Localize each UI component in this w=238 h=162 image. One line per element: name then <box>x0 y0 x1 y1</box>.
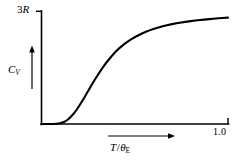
einstein-heat-capacity-figure: 3R 1.0 CV T/θE <box>0 0 238 162</box>
y-axis-title: CV <box>8 64 20 77</box>
y-axis-direction-arrow-icon <box>29 46 35 90</box>
x-axis-title-denominator-subscript: E <box>126 146 131 155</box>
x-axis-title: T/θE <box>110 142 130 155</box>
y-axis-max-label: 3R <box>17 4 29 15</box>
x-axis-max-label: 1.0 <box>213 127 226 137</box>
y-axis-title-subscript: V <box>15 68 20 77</box>
x-axis-direction-arrow-icon <box>108 133 175 139</box>
plot-canvas <box>0 0 238 162</box>
y-axis-max-symbol: R <box>23 3 30 15</box>
heat-capacity-curve <box>42 18 229 124</box>
